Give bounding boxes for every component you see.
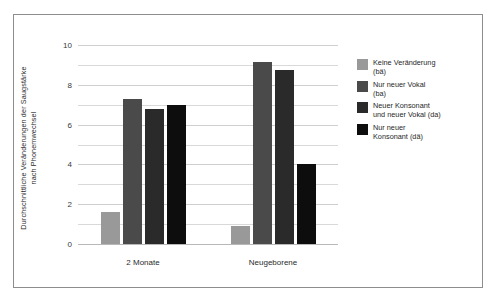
bar: [253, 62, 272, 244]
x-axis-tick-label: Neugeborene: [249, 258, 297, 267]
y-axis-title-line1: Durchschnittliche Veränderungen der Saug…: [19, 66, 28, 229]
legend-item-label: Nur neuer Vokal (ba): [373, 80, 425, 99]
legend-swatch-icon: [357, 124, 368, 135]
legend-swatch-icon: [357, 59, 368, 70]
bar: [297, 164, 316, 244]
bar: [123, 99, 142, 244]
legend-swatch-icon: [357, 81, 368, 92]
legend-item-label: Nur neuer Konsonant (dä): [373, 123, 423, 142]
legend-item-label: Neuer Konsonant und neuer Vokal (da): [373, 101, 441, 120]
chart-legend: Keine Veränderung (bä)Nur neuer Vokal (b…: [357, 58, 477, 144]
y-axis-tick-label: 4: [68, 160, 72, 169]
x-axis-tick-label: 2 Monate: [126, 258, 159, 267]
gridline-major: [78, 85, 338, 86]
chart-figure: Durchschnittliche Veränderungen der Saug…: [0, 0, 495, 304]
gridline-minor: [78, 105, 338, 106]
y-axis-title: Durchschnittliche Veränderungen der Saug…: [16, 40, 40, 255]
bar: [275, 70, 294, 244]
legend-item: Nur neuer Konsonant (dä): [357, 123, 477, 142]
gridline-major: [78, 45, 338, 46]
y-axis-title-line2: nach Phonemwechsel: [28, 66, 38, 229]
legend-swatch-icon: [357, 102, 368, 113]
plot-area: 02468102 MonateNeugeborene: [78, 45, 338, 244]
y-axis-tick-label: 0: [68, 240, 72, 249]
gridline-minor: [78, 65, 338, 66]
y-axis-tick-label: 8: [68, 80, 72, 89]
legend-item-label: Keine Veränderung (bä): [373, 58, 435, 77]
gridline-minor: [78, 145, 338, 146]
legend-item: Keine Veränderung (bä): [357, 58, 477, 77]
bar: [231, 226, 250, 244]
legend-item: Neuer Konsonant und neuer Vokal (da): [357, 101, 477, 120]
y-axis-tick-label: 2: [68, 200, 72, 209]
legend-item: Nur neuer Vokal (ba): [357, 80, 477, 99]
bar: [145, 109, 164, 244]
gridline-major: [78, 125, 338, 126]
gridline-major: [78, 244, 338, 245]
bar: [167, 105, 186, 244]
y-axis-tick-label: 6: [68, 120, 72, 129]
bar: [101, 212, 120, 244]
y-axis-tick-label: 10: [63, 41, 72, 50]
